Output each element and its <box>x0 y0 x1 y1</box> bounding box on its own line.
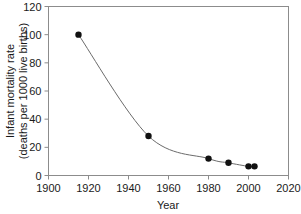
x-tick-label: 2020 <box>276 182 300 194</box>
y-tick-label: 60 <box>29 85 41 97</box>
data-point <box>145 133 151 139</box>
x-axis-ticks <box>49 176 289 180</box>
data-point <box>225 160 231 166</box>
y-tick-label: 40 <box>29 113 41 125</box>
y-axis-ticks <box>45 7 49 176</box>
y-tick-label: 80 <box>29 57 41 69</box>
x-tick-label: 1900 <box>36 182 60 194</box>
data-point <box>75 31 81 37</box>
data-point <box>251 163 257 169</box>
series-line <box>79 35 255 167</box>
x-tick-label: 2000 <box>236 182 260 194</box>
x-tick-label: 1920 <box>76 182 100 194</box>
y-tick-label: 120 <box>23 1 41 13</box>
x-tick-label: 1980 <box>196 182 220 194</box>
x-axis-tick-labels: 1900192019401960198020002020 <box>36 182 300 194</box>
data-point <box>245 163 251 169</box>
y-axis-label: Infant mortality rate <box>4 44 16 138</box>
x-tick-label: 1960 <box>156 182 180 194</box>
y-tick-label: 20 <box>29 141 41 153</box>
chart-figure: 1900192019401960198020002020 02040608010… <box>0 0 301 214</box>
data-point <box>205 155 211 161</box>
x-tick-label: 1940 <box>116 182 140 194</box>
y-axis-label-units: (deaths per 1000 live births) <box>17 23 29 159</box>
y-tick-label: 0 <box>35 170 41 182</box>
plot-frame <box>49 7 289 176</box>
chart-plot-area: 1900192019401960198020002020 02040608010… <box>0 0 301 214</box>
x-axis-label: Year <box>157 199 180 211</box>
